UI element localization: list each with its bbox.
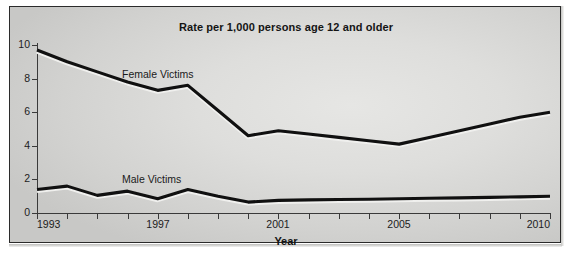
chart-figure: Rate per 1,000 persons age 12 and older … (0, 0, 570, 259)
series-label-female: Female Victims (122, 68, 194, 80)
chart-frame: Rate per 1,000 persons age 12 and older … (9, 6, 561, 243)
plot-lines (10, 7, 562, 244)
x-axis-title: Year (10, 235, 562, 247)
series-label-male: Male Victims (122, 173, 181, 185)
